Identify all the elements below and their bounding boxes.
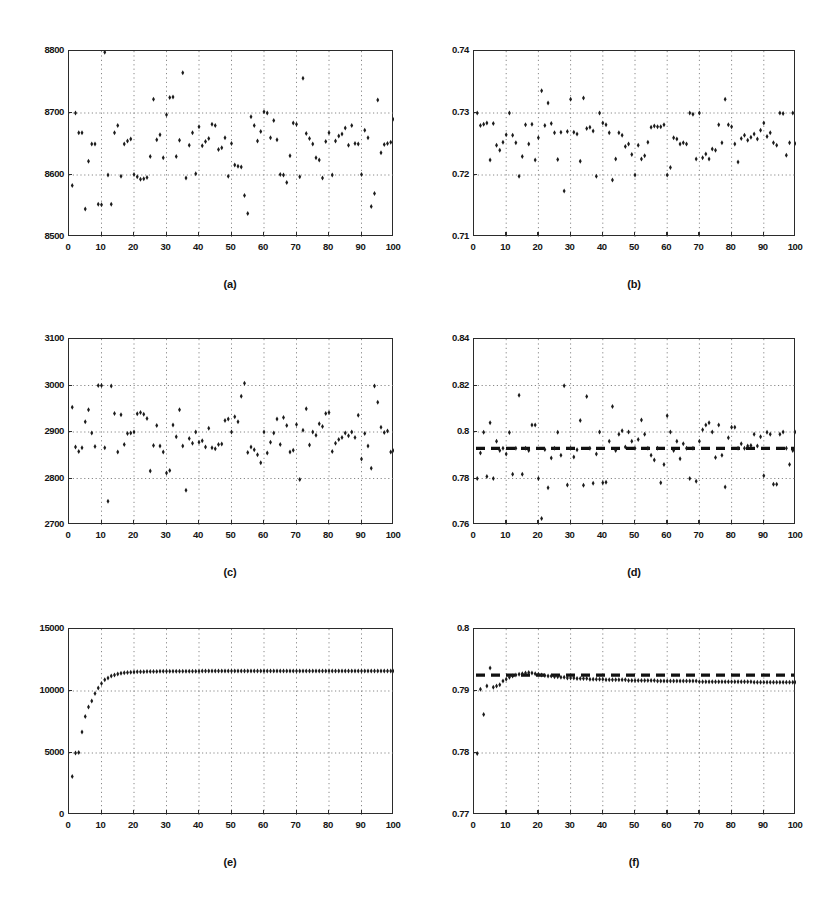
data-point [791,680,794,685]
data-point [666,679,669,684]
data-point [727,679,730,684]
data-point [672,679,675,684]
y-axis-tick-label-f: 0.77 [425,809,469,819]
data-point [479,687,482,692]
x-axis-tickmark [570,810,571,814]
data-point [582,676,585,681]
data-point [730,679,733,684]
data-point [585,676,588,681]
data-point [708,679,711,684]
data-point [737,679,740,684]
data-point [788,680,791,685]
x-axis-tick-label-f: 40 [597,820,607,830]
data-point [656,679,659,684]
data-point [598,677,601,682]
data-point [685,679,688,684]
y-axis-tickmark [473,752,477,753]
data-point [563,675,566,680]
data-point [588,677,591,682]
data-point [695,679,698,684]
data-point [785,680,788,685]
x-axis-tickmark [634,810,635,814]
data-point [627,678,630,683]
data-point [692,679,695,684]
data-point [617,677,620,682]
data-point [663,679,666,684]
data-point [688,679,691,684]
data-point [749,679,752,684]
data-point [698,679,701,684]
plot-canvas-f [474,629,796,815]
data-point [492,685,495,690]
data-point [495,684,498,689]
data-point [766,680,769,685]
data-point [646,678,649,683]
x-axis-tick-label-f: 50 [629,820,639,830]
data-point [704,679,707,684]
data-point [653,678,656,683]
data-point [720,679,723,684]
data-point [605,677,608,682]
chart-panel-f: 0.770.780.790.80102030405060708090100(f) [0,0,813,913]
data-point [637,678,640,683]
data-point [650,678,653,683]
data-point [714,679,717,684]
data-point [621,677,624,682]
x-axis-tick-label-f: 20 [533,820,543,830]
data-point [659,679,662,684]
data-point [601,677,604,682]
data-point [485,684,488,689]
x-axis-tickmark [666,810,667,814]
y-axis-tick-label-f: 0.78 [425,747,469,757]
x-axis-tick-label-f: 30 [565,820,575,830]
data-point [682,679,685,684]
data-point [717,679,720,684]
data-point [640,678,643,683]
data-point [701,679,704,684]
data-point [772,680,775,685]
data-point [608,677,611,682]
data-point [795,680,796,685]
x-axis-tickmark [602,810,603,814]
plot-area-f [473,628,795,814]
data-point [611,677,614,682]
data-point [531,671,534,676]
x-axis-tick-label-f: 70 [694,820,704,830]
figure-canvas: 85008600870088000102030405060708090100(a… [0,0,813,913]
data-point [592,677,595,682]
y-axis-tickmark [473,690,477,691]
data-point [630,678,633,683]
data-point [769,680,772,685]
data-point [669,679,672,684]
data-point [518,672,521,677]
x-axis-tick-label-f: 60 [661,820,671,830]
data-point [595,677,598,682]
data-point [711,679,714,684]
data-point [576,676,579,681]
data-point [756,680,759,685]
data-point [733,679,736,684]
data-point [724,679,727,684]
data-point [634,678,637,683]
data-point [579,676,582,681]
x-axis-tickmark [505,810,506,814]
data-point [614,677,617,682]
data-point [746,679,749,684]
y-axis-tick-label-f: 0.79 [425,685,469,695]
data-point [482,712,485,717]
y-axis-tick-label-f: 0.8 [425,623,469,633]
data-point [498,682,501,687]
x-axis-tick-label-f: 90 [758,820,768,830]
data-point [759,680,762,685]
x-axis-tick-label-f: 0 [471,820,476,830]
data-point [505,677,508,682]
data-point [675,679,678,684]
x-axis-tick-label-f: 80 [726,820,736,830]
x-axis-tickmark [698,810,699,814]
data-series-f [476,666,796,757]
data-point [762,680,765,685]
data-point [782,680,785,685]
data-point [743,679,746,684]
data-point [778,680,781,685]
x-axis-tickmark [731,810,732,814]
